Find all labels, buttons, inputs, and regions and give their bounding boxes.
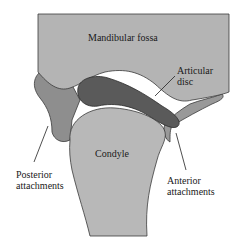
posterior-attachments-label: Posterior attachments: [16, 169, 64, 191]
mandibular-fossa-label: Mandibular fossa: [88, 32, 158, 43]
anterior-text-line2: attachments: [167, 186, 215, 197]
posterior-text-line2: attachments: [16, 180, 64, 191]
mandibular-fossa-text: Mandibular fossa: [88, 32, 158, 43]
condyle-label: Condyle: [95, 148, 129, 159]
mandibular-fossa-shape: [38, 14, 229, 101]
articular-disc-text-line1: Articular: [177, 65, 213, 76]
articular-disc-text-line2: disc: [177, 76, 213, 87]
posterior-text-line1: Posterior: [16, 169, 64, 180]
anterior-attachments-label: Anterior attachments: [167, 175, 215, 197]
condyle-text: Condyle: [95, 148, 129, 159]
posterior-leader: [34, 126, 48, 162]
articular-disc-label: Articular disc: [177, 65, 213, 87]
condyle-shape: [70, 108, 166, 236]
tmj-diagram: Mandibular fossa Articular disc Condyle …: [0, 0, 239, 250]
anterior-leader: [176, 133, 186, 170]
anterior-text-line1: Anterior: [167, 175, 215, 186]
